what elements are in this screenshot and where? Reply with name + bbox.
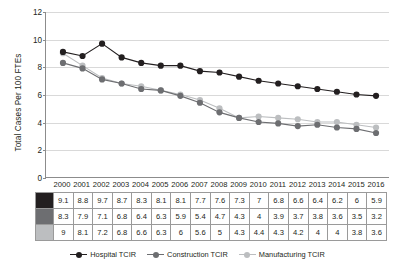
x-axis-tick-label: 2001 [73,180,90,189]
series-color-swatch [36,209,54,225]
y-axis-tick-label: 6 [37,91,42,100]
table-cell: 7 [249,193,269,209]
x-axis-tick-label: 2016 [368,180,385,189]
data-point [373,124,379,130]
data-point [138,60,144,66]
table-cell: 6.4 [132,209,152,225]
plot-area: 024681012 [45,12,389,178]
table-cell: 3.5 [347,209,367,225]
data-point [119,54,125,60]
data-point [334,119,340,125]
table-cell: 5.9 [367,193,387,209]
data-point [119,80,125,86]
data-point [138,86,144,92]
data-point [373,130,379,136]
data-point [256,119,262,125]
table-cell: 6 [347,193,367,209]
x-axis-tick-label: 2004 [132,180,149,189]
table-cell: 9 [54,225,74,241]
data-point [295,123,301,129]
table-cell: 5.4 [191,209,211,225]
table-cell: 3.8 [347,225,367,241]
table-cell: 5.9 [171,209,191,225]
data-point [158,63,164,69]
table-cell: 6.3 [151,209,171,225]
y-axis-tick-label: 12 [33,8,42,17]
table-cell: 4.3 [269,225,289,241]
series-color-swatch [36,225,54,241]
table-cell: 7.9 [73,209,93,225]
y-axis-tick-label: 8 [37,63,42,72]
table-cell: 4.2 [288,225,308,241]
table-cell: 3.7 [288,209,308,225]
table-cell: 4.3 [230,225,250,241]
table-cell: 8.3 [54,209,74,225]
x-axis-tick-label: 2003 [112,180,129,189]
x-axis-tick-label: 2007 [191,180,208,189]
series-color-swatch [36,193,54,209]
x-axis-labels: 2000200120022003200420052006200720082009… [45,180,389,192]
data-table-wrapper: 9.18.89.78.78.38.18.17.77.67.376.86.66.4… [35,192,387,239]
table-cell: 6.8 [269,193,289,209]
data-point [314,86,320,92]
data-point [236,74,242,80]
legend-marker-icon [70,250,87,259]
data-point [295,116,301,122]
data-point [275,120,281,126]
x-axis-tick-label: 2015 [348,180,365,189]
table-cell: 7.7 [191,193,211,209]
data-point [60,60,66,66]
data-point [158,87,164,93]
data-point [314,122,320,128]
x-axis-tick-label: 2011 [270,180,286,189]
table-cell: 3.9 [269,209,289,225]
x-axis-tick-label: 2010 [250,180,267,189]
legend-label: Manufacturing TCIR [259,250,325,259]
x-axis-tick-label: 2005 [152,180,169,189]
data-point [99,41,105,47]
table-cell: 4.7 [210,209,230,225]
table-cell: 7.6 [210,193,230,209]
table-row: 9.18.89.78.78.38.18.17.77.67.376.86.66.4… [36,193,387,209]
legend-item[interactable]: Hospital TCIR [70,250,136,259]
table-cell: 3.2 [367,209,387,225]
x-axis-tick-label: 2002 [93,180,110,189]
table-cell: 4 [249,209,269,225]
data-point [373,93,379,99]
data-point [353,91,359,97]
legend-item[interactable]: Construction TCIR [147,250,228,259]
data-point [275,80,281,86]
table-cell: 6.8 [112,225,132,241]
table-cell: 6.6 [288,193,308,209]
legend-marker-icon [239,250,256,259]
data-point [216,109,222,115]
table-cell: 5.6 [191,225,211,241]
data-point [177,93,183,99]
table-cell: 8.3 [132,193,152,209]
x-axis-tick-label: 2014 [328,180,345,189]
table-cell: 5 [210,225,230,241]
data-point [236,115,242,121]
data-point [256,113,262,119]
table-cell: 7.3 [230,193,250,209]
table-cell: 6.6 [132,225,152,241]
table-cell: 6.4 [308,193,328,209]
data-point [197,68,203,74]
table-cell: 6.8 [112,209,132,225]
x-axis-tick-label: 2009 [230,180,247,189]
table-row: 8.37.97.16.86.46.35.95.44.74.343.93.73.8… [36,209,387,225]
x-axis-tick-label: 2000 [54,180,71,189]
series-lines [46,12,389,177]
table-cell: 4 [308,225,328,241]
table-cell: 6 [171,225,191,241]
data-point [334,124,340,130]
table-cell: 9.7 [93,193,113,209]
table-cell: 6.2 [328,193,348,209]
table-cell: 8.8 [73,193,93,209]
y-axis-tick-label: 4 [37,118,42,127]
table-cell: 7.1 [93,209,113,225]
legend-item[interactable]: Manufacturing TCIR [239,250,325,259]
table-cell: 6.3 [151,225,171,241]
y-tick-mark [43,178,46,179]
data-point [79,53,85,59]
